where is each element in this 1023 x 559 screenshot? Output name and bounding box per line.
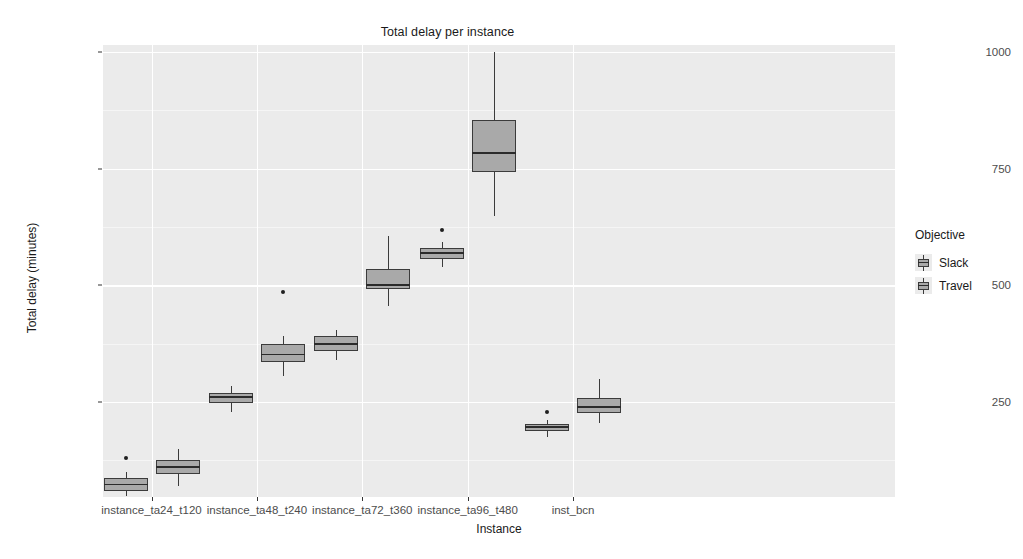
y-tick-label: 500 xyxy=(992,279,1011,291)
y-tick-mark xyxy=(98,402,102,403)
legend-item-label: Slack xyxy=(939,256,968,270)
median-line xyxy=(156,466,200,468)
outlier-point xyxy=(440,228,444,232)
legend-item-travel[interactable]: Travel xyxy=(915,274,972,297)
median-line xyxy=(472,152,516,154)
gridline-minor-y xyxy=(103,110,895,111)
median-line xyxy=(525,426,569,428)
y-tick-label: 1000 xyxy=(985,46,1011,58)
whisker-lower xyxy=(178,474,179,486)
whisker-lower xyxy=(494,172,495,216)
gridline-major-y xyxy=(103,285,895,286)
whisker-upper xyxy=(388,236,389,268)
gridline-major-x xyxy=(468,45,469,497)
median-line xyxy=(577,406,621,408)
plot-panel xyxy=(103,45,895,497)
y-tick-label: 250 xyxy=(992,396,1011,408)
y-axis-title: Total delay (minutes) xyxy=(25,168,39,388)
median-line xyxy=(209,396,253,398)
x-tick-mark xyxy=(362,497,363,501)
box-iqr xyxy=(420,248,464,259)
outlier-point xyxy=(545,410,549,414)
x-tick-mark xyxy=(573,497,574,501)
whisker-lower xyxy=(283,362,284,376)
legend-items: SlackTravel xyxy=(915,251,972,297)
legend-key-icon xyxy=(915,277,932,294)
x-tick-mark xyxy=(468,497,469,501)
x-tick-mark xyxy=(257,497,258,501)
median-line xyxy=(314,343,358,345)
gridline-major-y xyxy=(103,52,895,53)
whisker-upper xyxy=(494,52,495,120)
whisker-upper xyxy=(231,386,232,393)
chart-title: Total delay per instance xyxy=(0,25,895,39)
y-tick-label: 750 xyxy=(992,163,1011,175)
x-tick-label: instance_ta48_t240 xyxy=(207,504,307,516)
whisker-lower xyxy=(231,403,232,412)
gridline-minor-y xyxy=(103,344,895,345)
whisker-lower xyxy=(336,351,337,360)
x-tick-mark xyxy=(152,497,153,501)
outlier-point xyxy=(281,290,285,294)
whisker-upper xyxy=(283,336,284,344)
whisker-lower xyxy=(599,413,600,423)
gridline-minor-y xyxy=(103,227,895,228)
x-tick-label: instance_ta72_t360 xyxy=(312,504,412,516)
legend-title: Objective xyxy=(915,228,972,242)
box-iqr xyxy=(472,120,516,173)
outlier-point xyxy=(124,456,128,460)
whisker-upper xyxy=(599,379,600,399)
whisker-lower xyxy=(547,431,548,437)
gridline-minor-y xyxy=(103,460,895,461)
gridline-major-x xyxy=(257,45,258,497)
gridline-major-x xyxy=(152,45,153,497)
x-axis-title: Instance xyxy=(103,522,895,536)
whisker-upper xyxy=(178,449,179,461)
whisker-lower xyxy=(126,491,127,497)
y-tick-mark xyxy=(98,168,102,169)
median-line xyxy=(420,252,464,254)
legend: Objective SlackTravel xyxy=(915,228,972,297)
median-line xyxy=(366,284,410,286)
legend-item-slack[interactable]: Slack xyxy=(915,251,972,274)
legend-item-label: Travel xyxy=(939,279,972,293)
gridline-major-x xyxy=(573,45,574,497)
x-tick-label: instance_ta96_t480 xyxy=(417,504,517,516)
x-tick-label: instance_ta24_t120 xyxy=(101,504,201,516)
x-tick-label: inst_bcn xyxy=(552,504,595,516)
whisker-lower xyxy=(442,259,443,266)
median-line xyxy=(261,354,305,356)
gridline-major-x xyxy=(362,45,363,497)
y-tick-mark xyxy=(98,285,102,286)
median-line xyxy=(104,484,148,486)
whisker-lower xyxy=(388,289,389,306)
y-tick-mark xyxy=(98,52,102,53)
chart-page: Total delay per instance 2505007501000 T… xyxy=(0,0,1023,559)
legend-key-icon xyxy=(915,254,932,271)
